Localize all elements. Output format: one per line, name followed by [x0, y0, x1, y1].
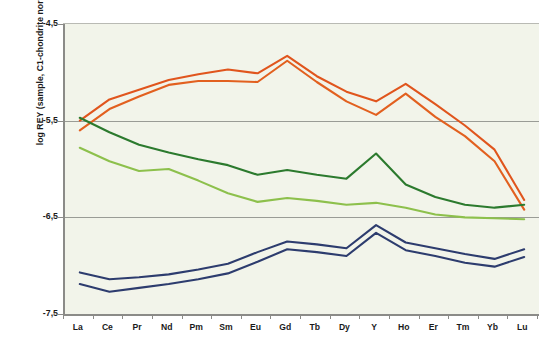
y-tick-mark: [56, 217, 64, 218]
x-tick-mark: [537, 314, 538, 319]
x-tick-mark: [211, 314, 212, 319]
x-tick-mark: [478, 314, 479, 319]
x-tick-mark: [182, 314, 183, 319]
series-line-blue-lower: [80, 233, 524, 292]
x-tick-mark: [389, 314, 390, 319]
x-tick-label-Lu: Lu: [505, 322, 539, 332]
x-tick-mark: [241, 314, 242, 319]
y-tick-label: -5,5: [14, 115, 58, 125]
y-tick-label: -7,5: [14, 308, 58, 318]
series-layer: [65, 24, 539, 314]
x-tick-mark: [448, 314, 449, 319]
x-tick-mark: [300, 314, 301, 319]
x-tick-mark: [93, 314, 94, 319]
x-tick-mark: [270, 314, 271, 319]
y-tick-label: -6,5: [14, 211, 58, 221]
y-axis-title: log REY (sample, C1-chondrite normalised…: [35, 0, 53, 195]
x-tick-mark: [419, 314, 420, 319]
series-line-light-green: [80, 148, 524, 220]
x-tick-mark: [359, 314, 360, 319]
chart-figure: log REY (sample, C1-chondrite normalised…: [0, 0, 555, 350]
y-tick-mark: [56, 24, 64, 25]
x-tick-mark: [122, 314, 123, 319]
x-tick-mark: [330, 314, 331, 319]
y-tick-mark: [56, 121, 64, 122]
y-tick-label: -4,5: [14, 18, 58, 28]
series-line-orange-upper: [80, 56, 524, 200]
x-tick-mark: [63, 314, 64, 319]
series-line-orange-lower: [80, 61, 524, 210]
plot-area: [63, 24, 539, 316]
x-tick-mark: [507, 314, 508, 319]
x-tick-mark: [152, 314, 153, 319]
series-line-blue-upper: [80, 225, 524, 279]
